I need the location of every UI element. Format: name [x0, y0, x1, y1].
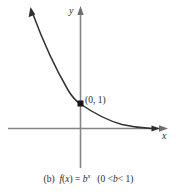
curve-arrowhead-right — [152, 126, 161, 132]
point-coordinate-label: (0, 1) — [85, 96, 106, 106]
caption-condition-open: (0 < — [97, 174, 113, 184]
exponential-decay-figure: y x (0, 1) (b) f(x) = bx(0 <b< 1) — [0, 0, 177, 194]
caption-exponent: x — [87, 172, 90, 179]
x-axis-label: x — [162, 131, 166, 141]
exponential-curve — [33, 13, 153, 129]
y-axis-label: y — [69, 6, 73, 16]
curve-arrowhead-top — [29, 7, 36, 17]
figure-caption: (b) f(x) = bx(0 <b< 1) — [0, 174, 177, 184]
y-axis-arrowhead — [77, 6, 83, 15]
caption-function-arg: (x) — [62, 174, 73, 184]
square-point-marker — [78, 101, 84, 107]
caption-index: (b) — [44, 174, 55, 184]
caption-condition-close: < 1) — [118, 174, 134, 184]
